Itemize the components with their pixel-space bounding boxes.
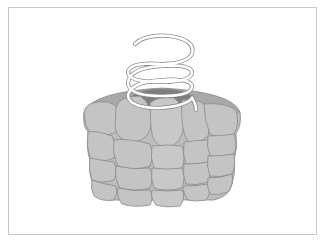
- protein-complex-diagram: [0, 0, 326, 243]
- subunit: [118, 188, 153, 206]
- subunit: [183, 140, 210, 165]
- subunit: [151, 145, 184, 170]
- subunit: [183, 162, 210, 185]
- subunit: [207, 134, 236, 157]
- subunit: [184, 184, 210, 201]
- subunit: [151, 168, 184, 190]
- subunit: [114, 140, 153, 170]
- subunit: [116, 166, 153, 190]
- subunit: [89, 158, 116, 182]
- subunit: [87, 132, 115, 162]
- subunit: [204, 104, 238, 137]
- subunit: [152, 190, 184, 207]
- subunit: [207, 154, 234, 177]
